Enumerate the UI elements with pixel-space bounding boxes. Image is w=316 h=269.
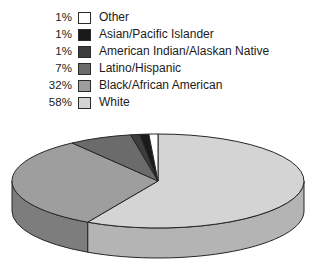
legend-percent: 1% bbox=[0, 9, 78, 26]
chart-legend: 1%Other1%Asian/Pacific Islander1%America… bbox=[0, 9, 316, 111]
legend-percent: 1% bbox=[0, 43, 78, 60]
legend-color-swatch bbox=[78, 63, 91, 75]
legend-item: 7%Latino/Hispanic bbox=[0, 60, 316, 77]
pie-top-faces bbox=[12, 134, 304, 228]
legend-percent: 32% bbox=[0, 77, 78, 94]
legend-color-swatch bbox=[78, 97, 91, 109]
legend-item: 1%Asian/Pacific Islander bbox=[0, 26, 316, 43]
legend-label: Asian/Pacific Islander bbox=[91, 26, 214, 43]
legend-percent: 7% bbox=[0, 60, 78, 77]
legend-label: Other bbox=[91, 9, 129, 26]
pie-svg bbox=[0, 128, 316, 269]
legend-label: American Indian/Alaskan Native bbox=[91, 43, 269, 60]
legend-label: White bbox=[91, 94, 130, 111]
legend-color-swatch bbox=[78, 46, 91, 58]
legend-color-swatch bbox=[78, 29, 91, 41]
legend-percent: 1% bbox=[0, 26, 78, 43]
legend-label: Black/African American bbox=[91, 77, 222, 94]
legend-label: Latino/Hispanic bbox=[91, 60, 181, 77]
legend-percent: 58% bbox=[0, 94, 78, 111]
legend-item: 1%American Indian/Alaskan Native bbox=[0, 43, 316, 60]
pie-chart-graphic bbox=[0, 128, 316, 269]
legend-item: 1%Other bbox=[0, 9, 316, 26]
pie-chart-figure: 1%Other1%Asian/Pacific Islander1%America… bbox=[0, 0, 316, 269]
legend-item: 32%Black/African American bbox=[0, 77, 316, 94]
legend-color-swatch bbox=[78, 12, 91, 24]
legend-item: 58%White bbox=[0, 94, 316, 111]
legend-color-swatch bbox=[78, 80, 91, 92]
